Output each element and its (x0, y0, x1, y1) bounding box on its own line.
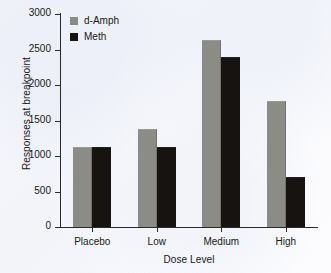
y-tick-label: 500 (34, 185, 51, 196)
bar-medium-meth (221, 57, 240, 227)
y-tick: 0 (55, 227, 60, 228)
legend-label: d-Amph (84, 14, 119, 28)
y-tick: 2000 (55, 85, 60, 86)
x-tick-label-placebo: Placebo (74, 236, 110, 247)
x-tick (286, 227, 287, 232)
y-tick-label: 2000 (29, 78, 51, 89)
legend-swatch-icon (70, 17, 78, 25)
legend-swatch-icon (70, 33, 78, 41)
bar-high-d-amph (267, 101, 286, 227)
bar-medium-d-amph (202, 40, 221, 227)
y-tick: 3000 (55, 14, 60, 15)
y-tick: 2500 (55, 50, 60, 51)
y-tick-label: 3000 (29, 7, 51, 18)
bar-low-meth (157, 147, 176, 227)
legend-label: Meth (84, 30, 106, 44)
y-tick-label: 0 (45, 220, 51, 231)
y-tick-label: 1500 (29, 114, 51, 125)
y-tick: 500 (55, 192, 60, 193)
chart-figure: Responses at breakpoint Dose Level 05001… (0, 0, 331, 273)
x-tick-label-medium: Medium (203, 236, 239, 247)
y-tick-label: 2500 (29, 43, 51, 54)
legend-item-d-amph[interactable]: d-Amph (70, 14, 119, 28)
legend-item-meth[interactable]: Meth (70, 30, 119, 44)
x-tick-label-low: Low (148, 236, 166, 247)
bar-placebo-d-amph (73, 147, 92, 227)
chart-legend: d-AmphMeth (70, 14, 119, 46)
bar-placebo-meth (92, 147, 111, 227)
x-tick (92, 227, 93, 232)
x-tick (157, 227, 158, 232)
y-axis-line (60, 13, 61, 228)
x-axis-title: Dose Level (60, 254, 318, 265)
y-tick: 1000 (55, 156, 60, 157)
x-tick (221, 227, 222, 232)
x-axis-line (60, 227, 318, 228)
y-tick-label: 1000 (29, 149, 51, 160)
bar-low-d-amph (138, 129, 157, 227)
y-tick: 1500 (55, 121, 60, 122)
x-tick-label-high: High (275, 236, 296, 247)
bar-high-meth (286, 177, 305, 227)
